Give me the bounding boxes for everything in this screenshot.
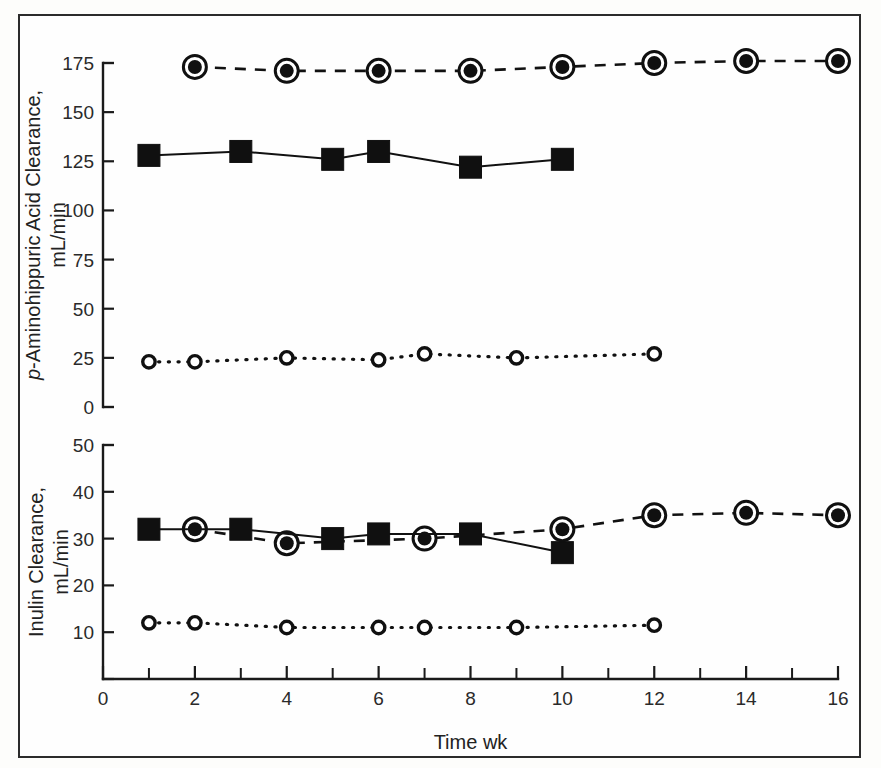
marker-square-bottom-1-4 (460, 523, 482, 545)
y-tick-label-bottom-3: 40 (73, 482, 94, 503)
marker-bullseye-dot-top-0-6 (739, 54, 753, 68)
marker-square-bottom-1-5 (551, 542, 573, 564)
marker-open-circle-bottom-2-3 (372, 621, 384, 633)
x-axis-title: Time wk (434, 731, 509, 753)
marker-open-circle-bottom-2-5 (510, 621, 522, 633)
y-axis-title-line1-bottom: Inulin Clearance, (25, 487, 47, 637)
y-tick-label-bottom-2: 30 (73, 529, 94, 550)
marker-open-circle-top-2-6 (648, 348, 660, 360)
marker-open-circle-top-2-1 (189, 356, 201, 368)
marker-bullseye-dot-bottom-0-3 (555, 522, 569, 536)
y-tick-label-top-2: 50 (73, 299, 94, 320)
marker-square-bottom-1-0 (138, 518, 160, 540)
marker-open-circle-top-2-5 (510, 352, 522, 364)
marker-open-circle-top-2-2 (281, 352, 293, 364)
x-tick-label-4: 8 (465, 688, 476, 709)
chart-canvas: 0255075100125150175p-Aminohippuric Acid … (0, 0, 881, 768)
marker-square-top-1-4 (460, 156, 482, 178)
x-tick-label-0: 0 (98, 688, 109, 709)
marker-open-circle-bottom-2-2 (281, 621, 293, 633)
x-tick-label-5: 10 (552, 688, 573, 709)
marker-open-circle-bottom-2-0 (143, 617, 155, 629)
x-axis: 0246810121416Time wk (98, 666, 849, 753)
marker-open-circle-top-2-3 (372, 354, 384, 366)
series-line-top-filled-square-solid-series (149, 152, 563, 168)
marker-bullseye-dot-top-0-4 (555, 60, 569, 74)
series-line-bottom-open-circle-dotted-series (149, 623, 654, 628)
marker-square-bottom-1-1 (230, 518, 252, 540)
marker-bullseye-dot-bottom-0-5 (739, 506, 753, 520)
y-axis-title-top: p-Aminohippuric Acid Clearance,mL/min (22, 90, 69, 381)
panel-bottom: 1020304050Inulin Clearance,mL/min (25, 435, 850, 679)
marker-square-bottom-1-3 (368, 523, 390, 545)
marker-open-circle-bottom-2-4 (418, 621, 430, 633)
y-tick-label-bottom-1: 20 (73, 575, 94, 596)
y-tick-label-top-3: 75 (73, 250, 94, 271)
marker-square-bottom-1-2 (322, 528, 344, 550)
marker-square-top-1-1 (230, 140, 252, 162)
marker-open-circle-top-2-0 (143, 356, 155, 368)
y-axis-title-line1-top: p-Aminohippuric Acid Clearance, (22, 90, 44, 381)
y-tick-label-bottom-0: 10 (73, 622, 94, 643)
marker-square-top-1-0 (138, 144, 160, 166)
marker-open-circle-bottom-2-1 (189, 617, 201, 629)
marker-bullseye-dot-top-0-1 (280, 64, 294, 78)
marker-open-circle-top-2-4 (418, 348, 430, 360)
marker-bullseye-dot-top-0-3 (464, 64, 478, 78)
panel-top: 0255075100125150175p-Aminohippuric Acid … (22, 50, 850, 418)
marker-bullseye-dot-bottom-0-6 (831, 508, 845, 522)
x-tick-label-6: 12 (644, 688, 665, 709)
marker-square-top-1-2 (322, 148, 344, 170)
marker-open-circle-bottom-2-6 (648, 619, 660, 631)
marker-bullseye-dot-top-0-2 (372, 64, 386, 78)
x-tick-label-1: 2 (190, 688, 201, 709)
marker-bullseye-dot-top-0-0 (188, 60, 202, 74)
y-tick-label-bottom-4: 50 (73, 435, 94, 456)
x-tick-label-7: 14 (736, 688, 758, 709)
y-axis-title-italic-prefix: p (22, 369, 44, 381)
marker-bullseye-dot-bottom-0-1 (280, 536, 294, 550)
y-tick-label-top-7: 175 (62, 53, 94, 74)
series-line-top-open-circle-dotted-series (149, 354, 654, 362)
y-axis-title-bottom: Inulin Clearance,mL/min (25, 487, 72, 637)
marker-bullseye-dot-top-0-7 (831, 54, 845, 68)
marker-bullseye-dot-top-0-5 (647, 56, 661, 70)
marker-bullseye-dot-bottom-0-4 (647, 508, 661, 522)
y-axis-title-line2-bottom: mL/min (50, 529, 72, 595)
x-tick-label-3: 6 (373, 688, 384, 709)
x-tick-label-8: 16 (827, 688, 848, 709)
y-tick-label-top-6: 150 (62, 102, 94, 123)
y-axis-title-line2-top: mL/min (47, 202, 69, 268)
x-tick-label-2: 4 (281, 688, 292, 709)
y-axis-title-rest: -Aminohippuric Acid Clearance, (22, 90, 44, 369)
y-tick-label-top-1: 25 (73, 348, 94, 369)
figure-root: 0255075100125150175p-Aminohippuric Acid … (0, 0, 881, 768)
marker-square-top-1-3 (368, 140, 390, 162)
marker-square-top-1-5 (551, 148, 573, 170)
y-tick-label-top-5: 125 (62, 151, 94, 172)
y-tick-label-top-0: 0 (83, 397, 94, 418)
